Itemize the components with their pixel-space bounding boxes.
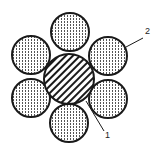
strand-upper-right [89,37,127,75]
strand-upper-left [12,36,50,74]
strand-bottom [50,104,88,142]
cable-cross-section-diagram: 12 [0,0,160,152]
callout-label-2: 2 [145,26,150,36]
core-circle [44,54,94,104]
core-conductor [44,54,94,104]
callout-label-1: 1 [105,130,110,140]
strand-top [51,13,89,51]
strand-lower-right [89,80,127,118]
leader-line-2 [126,38,143,47]
